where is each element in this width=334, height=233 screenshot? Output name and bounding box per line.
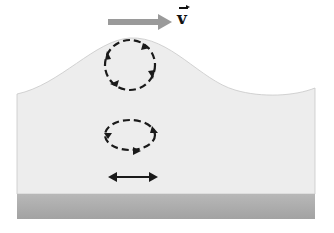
sea-floor — [17, 194, 315, 219]
velocity-arrow-icon — [108, 14, 172, 30]
wave-diagram — [0, 0, 334, 233]
velocity-label: v — [177, 8, 187, 28]
wave-surface — [17, 38, 315, 194]
